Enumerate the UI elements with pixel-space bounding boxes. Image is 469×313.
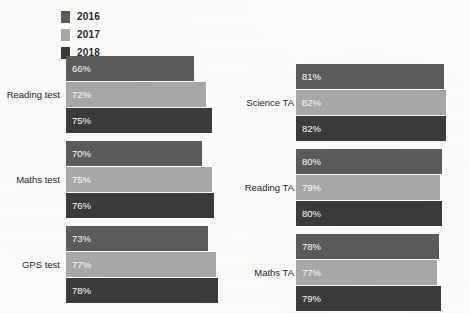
category-label: Reading TA xyxy=(174,183,294,193)
bar-value-label: 78% xyxy=(302,242,321,252)
bar-value-label: 78% xyxy=(72,286,91,296)
bar-2017[interactable]: 79% xyxy=(296,175,440,200)
bar-row: 76% xyxy=(0,193,234,218)
category-label: Reading test xyxy=(0,90,60,100)
bar-2018[interactable]: 82% xyxy=(296,116,446,141)
bar-row: 75% xyxy=(0,108,234,133)
bar-value-label: 79% xyxy=(302,294,321,304)
bar-value-label: 73% xyxy=(72,234,91,244)
bar-2018[interactable]: 76% xyxy=(66,193,214,218)
bar-group-gps-test: 73%GPS test77%78% xyxy=(0,226,234,303)
bar-2017[interactable]: 82% xyxy=(296,90,446,115)
legend-item-2016[interactable]: 2016 xyxy=(61,9,100,24)
category-label: Maths test xyxy=(0,175,60,185)
bar-group-maths-ta: 78%Maths TA77%79% xyxy=(234,234,469,311)
dual-bar-chart-figure: 201620172018 66%Reading test72%75%70%Mat… xyxy=(0,0,469,313)
plot-area-ta: 81%Science TA82%82%80%Reading TA79%80%78… xyxy=(234,64,469,313)
category-label: GPS test xyxy=(0,260,60,270)
bar-value-label: 66% xyxy=(72,64,91,74)
bar-value-label: 80% xyxy=(302,157,321,167)
bar-value-label: 80% xyxy=(302,209,321,219)
legend-swatch-icon xyxy=(61,11,70,23)
bar-row: 80% xyxy=(234,201,469,226)
bar-2016[interactable]: 66% xyxy=(66,56,194,81)
bar-value-label: 75% xyxy=(72,116,91,126)
legend-swatch-icon xyxy=(61,29,70,41)
bar-row: 70% xyxy=(0,141,234,166)
category-label: Science TA xyxy=(174,98,294,108)
bar-row: 66% xyxy=(0,56,234,81)
bar-value-label: 82% xyxy=(302,124,321,134)
bar-row: 79% xyxy=(234,286,469,311)
bar-row: 82% xyxy=(234,116,469,141)
bar-group-maths-test: 70%Maths test75%76% xyxy=(0,141,234,218)
bar-row: 73% xyxy=(0,226,234,251)
bar-2018[interactable]: 80% xyxy=(296,201,442,226)
chart-panel-ta: 201620172018 81%Science TA82%82%80%Readi… xyxy=(234,0,469,313)
bar-row: 80% xyxy=(234,149,469,174)
legend-tests: 201620172018 xyxy=(61,9,100,63)
bar-2016[interactable]: 78% xyxy=(296,234,439,259)
bar-value-label: 82% xyxy=(302,98,321,108)
bar-row: Maths TA77% xyxy=(234,260,469,285)
bar-row: 78% xyxy=(234,234,469,259)
bar-2016[interactable]: 70% xyxy=(66,141,202,166)
bar-value-label: 76% xyxy=(72,201,91,211)
bar-value-label: 72% xyxy=(72,90,91,100)
bar-value-label: 79% xyxy=(302,183,321,193)
bar-value-label: 77% xyxy=(302,268,321,278)
bar-value-label: 75% xyxy=(72,175,91,185)
legend-item-2017[interactable]: 2017 xyxy=(61,27,100,42)
bar-row: Reading TA79% xyxy=(234,175,469,200)
bar-group-reading-ta: 80%Reading TA79%80% xyxy=(234,149,469,226)
bar-row: Science TA82% xyxy=(234,90,469,115)
bar-value-label: 70% xyxy=(72,149,91,159)
bar-2016[interactable]: 81% xyxy=(296,64,444,89)
bar-group-science-ta: 81%Science TA82%82% xyxy=(234,64,469,141)
bar-group-reading-test: 66%Reading test72%75% xyxy=(0,56,234,133)
bar-row: 81% xyxy=(234,64,469,89)
category-label: Maths TA xyxy=(174,268,294,278)
bar-2018[interactable]: 78% xyxy=(66,278,218,303)
bar-value-label: 81% xyxy=(302,72,321,82)
bar-2018[interactable]: 79% xyxy=(296,286,441,311)
bar-2016[interactable]: 73% xyxy=(66,226,208,251)
legend-label: 2016 xyxy=(77,12,100,22)
chart-panel-tests: 201620172018 66%Reading test72%75%70%Mat… xyxy=(0,0,234,313)
legend-label: 2017 xyxy=(77,30,100,40)
bar-2016[interactable]: 80% xyxy=(296,149,442,174)
bar-value-label: 77% xyxy=(72,260,91,270)
bar-row: 78% xyxy=(0,278,234,303)
bar-2018[interactable]: 75% xyxy=(66,108,212,133)
bar-2017[interactable]: 77% xyxy=(296,260,437,285)
